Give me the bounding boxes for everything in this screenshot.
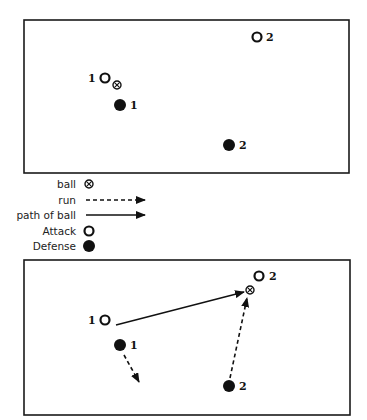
attacker-1-label: 1 (88, 314, 96, 327)
open-circle-icon (101, 316, 110, 325)
field-frame-2 (24, 260, 350, 415)
legend-item-defense: Defense (33, 240, 95, 252)
open-circle-icon (255, 272, 264, 281)
attacker-2: 2 (253, 31, 274, 44)
attacker-2-label: 2 (269, 270, 277, 283)
defender-1: 1 (114, 99, 138, 112)
attacker-2-label: 2 (266, 31, 274, 44)
legend-item-run: run (58, 194, 145, 206)
diagram-2: 2 1 1 2 (24, 260, 350, 415)
legend-item-ball: ball (57, 178, 93, 190)
attacker-1-label: 1 (88, 72, 96, 85)
filled-circle-icon (114, 99, 126, 111)
attacker-2: 2 (255, 270, 277, 283)
defender-2: 2 (223, 139, 247, 152)
defender-2-label: 2 (239, 139, 247, 152)
legend-label: run (58, 194, 76, 206)
diagram-1: 2 1 1 2 (24, 20, 349, 173)
pass-path-arrow (116, 292, 244, 325)
diagram-canvas: 2 1 1 2 ball (0, 0, 367, 420)
legend-item-path-of-ball: path of ball (16, 209, 145, 221)
open-circle-icon (101, 74, 110, 83)
legend-label: Attack (42, 225, 76, 237)
defender-2-run-arrow (230, 298, 247, 378)
filled-circle-icon (223, 139, 235, 151)
ball (113, 81, 121, 89)
defender-1-run-arrow (124, 355, 139, 382)
legend-label: path of ball (16, 209, 76, 221)
attacker-1: 1 (88, 314, 110, 327)
filled-circle-icon (114, 339, 126, 351)
defender-2: 2 (223, 380, 247, 393)
filled-circle-icon (83, 240, 95, 252)
legend-item-attack: Attack (42, 225, 93, 237)
defender-1-label: 1 (130, 339, 138, 352)
legend: ball run path of ball Attack Defense (16, 178, 145, 252)
open-circle-icon (253, 33, 262, 42)
ball (246, 286, 254, 294)
defender-2-label: 2 (239, 380, 247, 393)
filled-circle-icon (223, 380, 235, 392)
defender-1-label: 1 (130, 99, 138, 112)
legend-label: ball (57, 178, 76, 190)
defender-1: 1 (114, 339, 138, 352)
legend-label: Defense (33, 240, 76, 252)
open-circle-icon (85, 227, 94, 236)
attacker-1: 1 (88, 72, 110, 85)
field-frame-1 (24, 20, 349, 173)
